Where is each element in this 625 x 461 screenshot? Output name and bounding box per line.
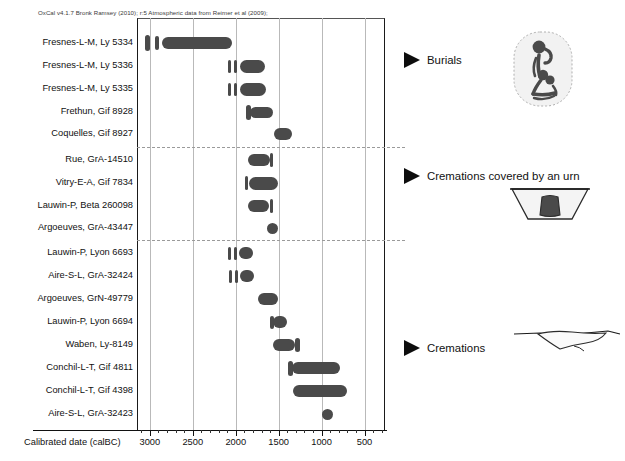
gridline-3000	[150, 18, 151, 430]
sample-label: Lauwin-P, Lyon 6693	[47, 247, 133, 257]
sample-label: Argoeuves, GrN-49779	[37, 293, 133, 303]
group-separator-urn-cremations	[137, 240, 405, 241]
distribution-spike	[145, 35, 150, 51]
tick-1500	[279, 430, 280, 436]
flat-pit-profile-pictogram	[512, 324, 622, 360]
sample-label: Aire-S-L, GrA-32424	[48, 270, 133, 280]
sample-label: Rue, GrA-14510	[65, 154, 133, 164]
tick-3000	[150, 430, 151, 436]
tick-minor-400	[373, 430, 374, 433]
distribution-spike	[228, 83, 231, 96]
tick-minor-1600	[270, 430, 271, 433]
tick-minor-2900	[158, 430, 159, 433]
tick-minor-2300	[210, 430, 211, 433]
distribution-bar	[322, 409, 333, 420]
distribution-bar	[249, 177, 278, 190]
gridline-1500	[279, 18, 280, 430]
plot-frame	[137, 18, 385, 430]
distribution-spike	[245, 176, 248, 190]
tick-500	[365, 430, 366, 436]
tick-minor-1400	[287, 430, 288, 433]
sample-label: Vitry-E-A, Gif 7834	[56, 177, 133, 187]
distribution-bar	[240, 83, 266, 96]
sample-label: Aire-S-L, GrA-32423	[48, 408, 133, 418]
distribution-bar	[248, 200, 269, 212]
crouched-skeleton-pictogram	[512, 30, 574, 108]
tick-minor-2100	[227, 430, 228, 433]
annotation-burials: Burials	[404, 52, 462, 68]
sample-label: Fresnes-L-M, Ly 5335	[42, 83, 133, 93]
tick-minor-2600	[184, 430, 185, 433]
distribution-bar	[239, 247, 253, 259]
tick-minor-1300	[296, 430, 297, 433]
distribution-spike	[270, 199, 273, 213]
tick-label-1000: 1000	[311, 437, 332, 447]
sample-label: Waben, Ly-8149	[65, 339, 133, 349]
tick-minor-1800	[253, 430, 254, 433]
axis-title-rule	[33, 430, 137, 431]
tick-label-2500: 2500	[182, 437, 203, 447]
annotation-label: Burials	[427, 54, 462, 66]
oxcal-credit-line: OxCal v4.1.7 Bronk Ramsey (2010); r:5 At…	[38, 9, 268, 16]
distribution-bar	[293, 385, 347, 397]
distribution-spike	[234, 83, 237, 96]
distribution-bar	[240, 60, 265, 73]
distribution-bar	[248, 154, 270, 166]
tick-2000	[236, 430, 237, 436]
gridline-2000	[236, 18, 237, 430]
tick-minor-300	[382, 430, 383, 433]
distribution-bar	[250, 107, 273, 118]
annotation-cremations: Cremations	[404, 340, 485, 356]
tick-minor-700	[347, 430, 348, 433]
distribution-bar	[267, 223, 278, 234]
tick-minor-2200	[219, 430, 220, 433]
tick-minor-800	[339, 430, 340, 433]
distribution-spike	[234, 247, 237, 260]
distribution-bar	[274, 128, 292, 140]
sample-label: Coquelles, Gif 8927	[51, 128, 133, 138]
tick-minor-900	[330, 430, 331, 433]
distribution-bar	[273, 316, 287, 328]
distribution-spike	[228, 247, 231, 260]
sample-label: Lauwin-P, Lyon 6694	[47, 316, 133, 326]
tick-minor-1900	[244, 430, 245, 433]
sample-label: Lauwin-P, Beta 260098	[38, 200, 133, 210]
tick-minor-600	[356, 430, 357, 433]
distribution-bar	[240, 270, 254, 282]
tick-minor-2400	[201, 430, 202, 433]
distribution-spike	[270, 153, 273, 167]
distribution-bar	[273, 339, 295, 351]
oxcal-calibration-figure: OxCal v4.1.7 Bronk Ramsey (2010); r:5 At…	[0, 0, 625, 461]
group-separator-burials	[137, 147, 405, 148]
tick-minor-2800	[167, 430, 168, 433]
triangle-right-icon	[404, 340, 420, 356]
urn-in-pit-pictogram	[508, 183, 592, 223]
tick-2500	[193, 430, 194, 436]
distribution-spike	[228, 60, 231, 73]
triangle-right-icon	[404, 168, 420, 184]
distribution-bar	[258, 293, 278, 305]
sample-label: Fresnes-L-M, Ly 5336	[42, 60, 133, 70]
tick-label-2000: 2000	[225, 437, 246, 447]
tick-minor-1200	[304, 430, 305, 433]
tick-minor-2700	[176, 430, 177, 433]
annotation-label: Cremations	[427, 342, 485, 354]
distribution-bar	[292, 362, 340, 374]
distribution-bar	[162, 37, 232, 49]
tick-label-500: 500	[357, 437, 373, 447]
tick-label-1500: 1500	[268, 437, 289, 447]
annotation-label: Cremations covered by an urn	[427, 170, 580, 182]
annotation-urn-cremations: Cremations covered by an urn	[404, 168, 580, 184]
tick-minor-1100	[313, 430, 314, 433]
sample-label: Argoeuves, GrA-43447	[38, 222, 133, 232]
distribution-spike	[234, 60, 237, 73]
tick-label-3000: 3000	[140, 437, 161, 447]
distribution-spike	[155, 36, 159, 50]
sample-label: Frethun, Gif 8928	[61, 106, 133, 116]
x-axis-title: Calibrated date (calBC)	[24, 437, 121, 447]
distribution-spike	[229, 270, 232, 283]
distribution-spike	[295, 338, 300, 352]
tick-1000	[322, 430, 323, 436]
tick-minor-1700	[262, 430, 263, 433]
gridline-2500	[193, 18, 194, 430]
